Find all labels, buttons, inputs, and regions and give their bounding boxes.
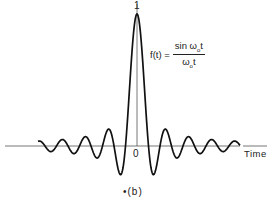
formula-lhs: f(t) =	[150, 49, 170, 60]
y-tick-label-one: 1	[134, 0, 140, 11]
numerator-text: sin ω	[175, 40, 197, 51]
denominator-text: ω	[182, 56, 189, 67]
numerator-tail: t	[200, 40, 203, 51]
formula-numerator: sin ωot	[173, 40, 205, 55]
denominator-tail: t	[193, 56, 196, 67]
formula-fraction: sin ωot ωot	[173, 40, 205, 69]
formula: f(t) = sin ωot ωot	[150, 40, 205, 69]
x-tick-label-origin: 0	[133, 148, 139, 159]
sinc-figure	[0, 0, 276, 204]
x-axis-label: Time	[244, 148, 267, 159]
formula-denominator: ωot	[182, 55, 195, 69]
sinc-curve	[38, 14, 240, 175]
figure-caption: •(b)	[123, 186, 143, 197]
